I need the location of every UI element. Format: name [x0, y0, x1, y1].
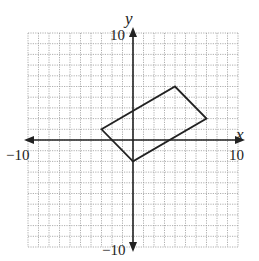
y-axis-bottom-arrow-icon — [129, 242, 137, 252]
axes — [24, 27, 245, 252]
parallelogram — [102, 87, 207, 162]
x-max-label: 10 — [229, 147, 244, 163]
y-max-label: 10 — [110, 27, 125, 43]
x-axis-label: x — [235, 125, 244, 144]
x-axis-left-arrow-icon — [24, 136, 34, 144]
y-min-label: −10 — [102, 242, 125, 258]
y-axis-label: y — [123, 9, 133, 28]
x-min-label: −10 — [6, 147, 29, 163]
coordinate-plane: y 10 x −10 10 −10 — [0, 0, 259, 261]
y-axis-top-arrow-icon — [129, 27, 137, 37]
